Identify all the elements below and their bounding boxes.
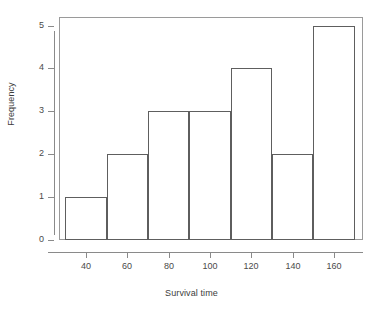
- y-axis-title: Frequency: [6, 72, 16, 136]
- y-axis-tick-label: 0: [22, 235, 44, 244]
- y-axis-tick-label-wrap: 5: [18, 21, 44, 31]
- x-axis-tick: [251, 252, 252, 258]
- histogram-bar[interactable]: [272, 154, 313, 240]
- histogram-bar[interactable]: [313, 26, 354, 240]
- x-axis-tick-label: 100: [190, 262, 230, 271]
- y-axis-tick-label-wrap: 4: [18, 63, 44, 73]
- x-axis-title: Survival time: [0, 288, 383, 298]
- y-axis-line: [54, 31, 55, 235]
- y-axis-tick-label: 1: [22, 192, 44, 201]
- x-axis-tick-label: 120: [231, 262, 271, 271]
- y-axis-tick-label-wrap: 2: [18, 149, 44, 159]
- histogram-figure: 012345 406080100120140160 Survival time …: [0, 0, 383, 311]
- y-axis-tick: [48, 240, 54, 241]
- x-axis-tick: [169, 252, 170, 258]
- histogram-bar[interactable]: [189, 111, 230, 240]
- y-axis-tick: [48, 68, 54, 69]
- x-axis-tick-label: 60: [107, 262, 147, 271]
- y-axis-tick-label: 3: [22, 106, 44, 115]
- x-axis-tick-label: 160: [314, 262, 354, 271]
- y-axis-tick-label-wrap: 0: [18, 235, 44, 245]
- x-axis-tick-label: 40: [66, 262, 106, 271]
- x-axis-tick: [210, 252, 211, 258]
- y-axis-tick: [48, 26, 54, 27]
- y-axis-tick-label-wrap: 3: [18, 106, 44, 116]
- x-axis-tick: [334, 252, 335, 258]
- y-axis-tick: [48, 154, 54, 155]
- x-axis-tick-label: 80: [149, 262, 189, 271]
- x-axis-tick: [127, 252, 128, 258]
- x-axis-line: [48, 252, 363, 253]
- x-axis-tick: [293, 252, 294, 258]
- y-axis-tick-label: 4: [22, 63, 44, 72]
- y-axis-tick-label-wrap: 1: [18, 192, 44, 202]
- histogram-bar[interactable]: [107, 154, 148, 240]
- bars-layer: [59, 17, 363, 240]
- y-axis-tick: [48, 197, 54, 198]
- x-axis-tick-label: 140: [273, 262, 313, 271]
- x-axis-tick: [86, 252, 87, 258]
- histogram-bar[interactable]: [65, 197, 106, 240]
- y-axis-tick-label: 5: [22, 21, 44, 30]
- histogram-bar[interactable]: [148, 111, 189, 240]
- histogram-bar[interactable]: [231, 68, 272, 240]
- y-axis-tick: [48, 111, 54, 112]
- y-axis-tick-label: 2: [22, 149, 44, 158]
